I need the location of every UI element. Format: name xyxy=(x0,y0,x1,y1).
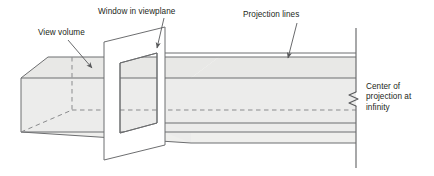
label-window-in-viewplane: Window in viewplane xyxy=(98,7,175,17)
projection-diagram: View volume Window in viewplane Projecti… xyxy=(0,0,434,176)
label-center-of-projection: Center of projection at infinity xyxy=(366,82,411,113)
label-view-volume: View volume xyxy=(38,28,85,38)
label-projection-lines: Projection lines xyxy=(243,10,299,20)
projection-lower-wedge xyxy=(164,132,356,143)
projection-top-slab xyxy=(191,57,356,78)
